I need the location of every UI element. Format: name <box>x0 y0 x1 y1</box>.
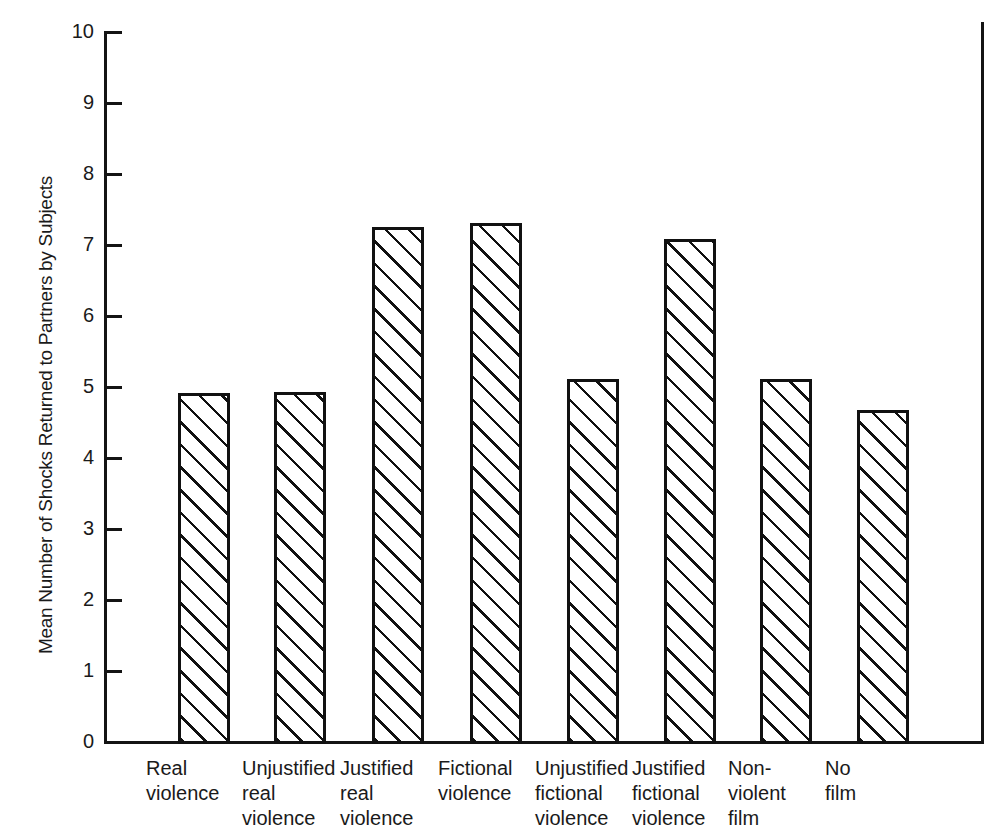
category-label-8: No film <box>825 756 856 806</box>
category-label-1: Real violence <box>146 756 219 806</box>
right-border-line <box>981 22 984 744</box>
category-label-6: Justified fictional violence <box>632 756 705 830</box>
y-tick-label-6: 6 <box>48 305 94 325</box>
y-tick-9 <box>104 102 122 105</box>
y-tick-6 <box>104 315 122 318</box>
bar-2 <box>274 392 326 744</box>
y-tick-label-5: 5 <box>48 376 94 396</box>
y-tick-label-2: 2 <box>48 589 94 609</box>
y-tick-2 <box>104 599 122 602</box>
bar-1 <box>178 393 230 744</box>
category-label-3: Justified real violence <box>340 756 413 830</box>
bar-5 <box>567 379 619 744</box>
x-axis-line <box>104 741 984 744</box>
y-tick-0 <box>104 741 122 744</box>
category-label-4: Fictional violence <box>438 756 512 806</box>
y-tick-label-9: 9 <box>48 92 94 112</box>
bar-6 <box>664 239 716 744</box>
y-tick-8 <box>104 173 122 176</box>
y-tick-3 <box>104 528 122 531</box>
y-tick-label-0: 0 <box>48 731 94 751</box>
y-tick-5 <box>104 386 122 389</box>
bar-3 <box>372 227 424 744</box>
y-tick-10 <box>104 31 122 34</box>
bar-4 <box>470 223 522 744</box>
y-tick-7 <box>104 244 122 247</box>
y-tick-1 <box>104 670 122 673</box>
y-tick-label-4: 4 <box>48 447 94 467</box>
y-tick-label-7: 7 <box>48 234 94 254</box>
y-tick-4 <box>104 457 122 460</box>
y-tick-label-1: 1 <box>48 660 94 680</box>
category-label-2: Unjustified real violence <box>242 756 335 830</box>
y-tick-label-10: 10 <box>48 21 94 41</box>
bar-chart-figure: Mean Number of Shocks Returned to Partne… <box>0 0 1000 830</box>
category-label-5: Unjustified fictional violence <box>535 756 628 830</box>
y-tick-label-8: 8 <box>48 163 94 183</box>
category-label-7: Non- violent film <box>728 756 786 830</box>
bar-8 <box>857 410 909 744</box>
y-tick-label-3: 3 <box>48 518 94 538</box>
bar-7 <box>760 379 812 744</box>
